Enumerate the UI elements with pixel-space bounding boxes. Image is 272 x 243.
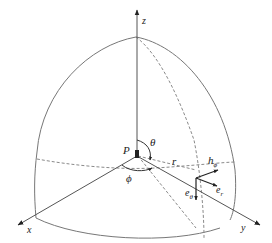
x-axis-label: x bbox=[26, 224, 32, 235]
origin-marker bbox=[135, 150, 139, 158]
radius-label: r bbox=[172, 155, 177, 167]
phi-label: ϕ bbox=[126, 172, 132, 184]
origin-label: P bbox=[122, 144, 130, 156]
e-theta-label: eθ bbox=[185, 187, 193, 201]
e-r-label: er bbox=[216, 184, 223, 198]
theta-label: θ bbox=[150, 136, 156, 148]
spherical-coordinates-diagram: z x y P θ ϕ r hϕ er eθ bbox=[0, 0, 272, 243]
sphere-bottom-arc bbox=[36, 218, 220, 238]
sphere-left-arc bbox=[35, 37, 136, 218]
dashed-latitude bbox=[37, 159, 236, 168]
h-phi-label: hϕ bbox=[208, 154, 218, 169]
e-r-vector bbox=[196, 178, 217, 186]
z-axis-label: z bbox=[141, 15, 146, 26]
y-axis-label: y bbox=[240, 222, 246, 233]
dashed-meridian bbox=[136, 37, 204, 238]
